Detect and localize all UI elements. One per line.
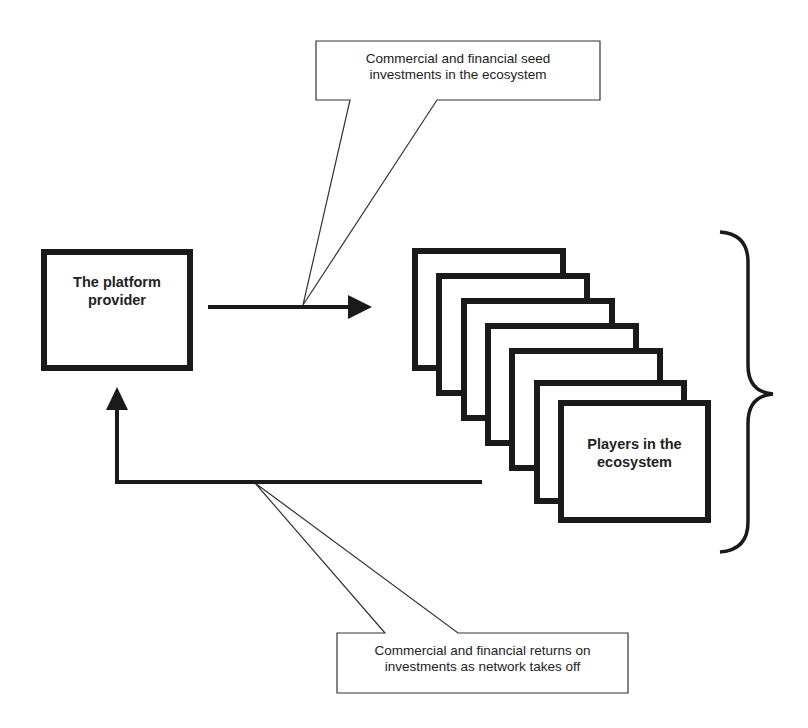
return-arrow xyxy=(106,387,482,482)
diagram-canvas xyxy=(0,0,808,728)
platform-provider-label: The platform provider xyxy=(44,274,190,309)
forward-arrow xyxy=(208,295,372,319)
players-label: Players in the ecosystem xyxy=(561,436,708,471)
top-callout-text: Commercial and financial seed investment… xyxy=(316,51,600,84)
top-callout-line2: investments in the ecosystem xyxy=(316,67,600,83)
bottom-callout-text: Commercial and financial returns on inve… xyxy=(337,643,628,676)
top-callout-line1: Commercial and financial seed xyxy=(316,51,600,67)
bottom-callout-line1: Commercial and financial returns on xyxy=(337,643,628,659)
curly-brace xyxy=(720,232,773,552)
players-line1: Players in the xyxy=(561,436,708,454)
platform-provider-line1: The platform xyxy=(44,274,190,292)
platform-provider-box xyxy=(44,252,190,368)
bottom-callout-line2: investments as network takes off xyxy=(337,659,628,675)
players-stack xyxy=(415,251,708,520)
players-line2: ecosystem xyxy=(561,454,708,472)
platform-provider-line2: provider xyxy=(44,292,190,310)
